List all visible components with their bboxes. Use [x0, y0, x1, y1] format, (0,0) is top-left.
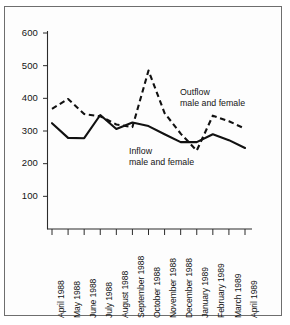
series-line-inflow	[52, 115, 245, 148]
x-tick-label-october-1988: October 1988	[152, 267, 162, 318]
annotation-outflow-line1: Outflow	[180, 87, 245, 98]
x-tick-label-december-1988: December 1988	[184, 258, 194, 318]
x-tick-label-august-1988: August 1988	[120, 271, 130, 318]
x-tick-label-may-1988: May 1988	[72, 281, 82, 318]
annotation-inflow: Inflow male and female	[129, 146, 194, 167]
x-tick-label-january-1989: January 1989	[200, 267, 210, 318]
x-tick-label-september-1988: September 1988	[136, 256, 146, 318]
chart-axes	[48, 31, 253, 230]
annotation-inflow-line1: Inflow	[129, 146, 194, 157]
annotation-inflow-line2: male and female	[129, 157, 194, 168]
y-tick-label-600: 600	[12, 27, 38, 38]
x-tick-label-july-1988: July 1988	[104, 282, 114, 318]
x-tick-label-february-1989: February 1989	[216, 263, 226, 318]
x-tick-label-june-1988: June 1988	[88, 279, 98, 318]
annotation-outflow: Outflow male and female	[180, 87, 245, 108]
y-tick-label-300: 300	[12, 125, 38, 136]
y-tick-label-100: 100	[12, 190, 38, 201]
y-tick-label-500: 500	[12, 60, 38, 71]
y-tick-label-200: 200	[12, 157, 38, 168]
x-tick-label-november-1988: November 1988	[168, 258, 178, 318]
y-tick-label-400: 400	[12, 92, 38, 103]
x-tick-label-april-1989: April 1989	[249, 280, 259, 318]
annotation-outflow-line2: male and female	[180, 98, 245, 109]
x-axis-ticks	[52, 229, 245, 235]
x-tick-label-april-1988: April 1988	[56, 280, 66, 318]
x-tick-label-march-1989: March 1989	[233, 274, 243, 318]
figure-container: 600 500 400 300 200 100 April 1988May 19…	[0, 0, 290, 325]
